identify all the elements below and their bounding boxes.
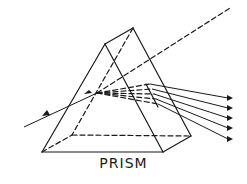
prism-caption: PRISM: [0, 155, 247, 171]
arrow-icon: [42, 110, 50, 116]
arrow-icon: [84, 90, 92, 94]
outgoing-rays: [150, 84, 233, 142]
arrowhead-icon: [227, 95, 233, 101]
back-right-edge: [133, 28, 191, 136]
front-left-edge: [42, 44, 105, 152]
arrowhead-icon: [227, 136, 233, 142]
arrowhead-icon: [227, 105, 233, 111]
undeviated-path: [97, 8, 230, 93]
arrowhead-icon: [227, 115, 233, 121]
bottom-right-edge: [163, 136, 191, 152]
hidden-back-bottom-edge: [72, 135, 191, 136]
arrowhead-icon: [227, 125, 233, 131]
hidden-back-left-edge: [72, 28, 133, 135]
dispersion-band-line: [146, 84, 158, 107]
